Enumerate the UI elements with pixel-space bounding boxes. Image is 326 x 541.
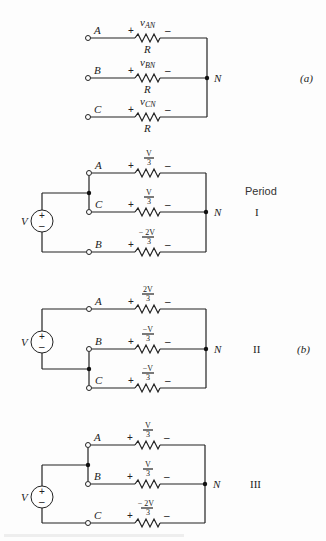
svg-text:–: – <box>165 296 171 307</box>
svg-text:− 2V: − 2V <box>139 228 156 237</box>
period-header: Period <box>245 185 277 197</box>
svg-text:C: C <box>95 198 103 210</box>
source-label: V <box>21 215 29 227</box>
svg-text:N: N <box>213 343 222 355</box>
svg-text:–: – <box>165 375 171 386</box>
plus-sign: + <box>128 25 134 36</box>
circuit-diagram: A B C + – + – + – vAN vBN vCN R R R N (a… <box>0 0 326 541</box>
plus-sign: + <box>128 104 134 115</box>
svg-text:–: – <box>164 471 170 482</box>
svg-text:–: – <box>165 160 171 171</box>
svg-text:–: – <box>165 239 171 250</box>
terminal-a <box>86 36 91 41</box>
svg-text:–: – <box>165 336 171 347</box>
svg-text:+: + <box>128 199 134 210</box>
svg-text:A: A <box>94 159 102 171</box>
svg-text:+: + <box>127 432 133 443</box>
svg-text:B: B <box>95 238 102 250</box>
svg-text:3: 3 <box>146 508 150 517</box>
terminal-c <box>86 115 91 120</box>
svg-text:V: V <box>146 149 152 158</box>
svg-text:+: + <box>128 375 134 386</box>
svg-text:–: – <box>164 510 170 521</box>
period-numeral: II <box>253 343 261 355</box>
svg-text:–: – <box>39 341 45 352</box>
minus-sign: – <box>165 104 171 115</box>
minus-sign: – <box>165 65 171 76</box>
neutral-node <box>205 76 209 80</box>
svg-text:3: 3 <box>146 334 150 343</box>
svg-text:3: 3 <box>147 197 151 206</box>
terminal-label: A <box>93 24 101 36</box>
svg-text:C: C <box>95 374 103 386</box>
part-a-label: (a) <box>300 72 313 85</box>
svg-text:V: V <box>21 336 29 348</box>
svg-text:3: 3 <box>147 237 151 246</box>
period-numeral: I <box>255 206 259 218</box>
svg-text:V: V <box>145 421 151 430</box>
caption-residue <box>4 534 184 537</box>
svg-text:3: 3 <box>146 294 150 303</box>
svg-text:+: + <box>128 336 134 347</box>
svg-text:–: – <box>165 199 171 210</box>
svg-text:− 2V: − 2V <box>138 499 155 508</box>
svg-text:+: + <box>127 510 133 521</box>
svg-text:+: + <box>128 239 134 250</box>
voltage-label: vCN <box>140 95 156 109</box>
voltage-label: vAN <box>140 16 156 30</box>
svg-text:C: C <box>94 509 102 521</box>
resistor-label: R <box>143 43 151 55</box>
svg-text:–: – <box>39 496 45 507</box>
svg-text:V: V <box>145 460 151 469</box>
period-1-circuit: + – V A C B +– +– +– V3 V3 − 2V3 N Perio… <box>21 149 277 256</box>
part-a: A B C + – + – + – vAN vBN vCN R R R N (a… <box>86 16 314 134</box>
svg-text:3: 3 <box>146 469 150 478</box>
terminal-label: B <box>94 64 101 76</box>
minus-sign: – <box>165 25 171 36</box>
svg-text:−V: −V <box>143 325 154 334</box>
svg-text:A: A <box>93 431 101 443</box>
plus-sign: + <box>128 65 134 76</box>
svg-text:V: V <box>146 188 152 197</box>
svg-text:–: – <box>164 432 170 443</box>
svg-text:3: 3 <box>147 158 151 167</box>
svg-text:B: B <box>95 335 102 347</box>
resistor-label: R <box>143 122 151 134</box>
svg-text:–: – <box>39 220 45 231</box>
period-numeral: III <box>250 478 261 490</box>
svg-text:+: + <box>127 471 133 482</box>
svg-text:N: N <box>213 206 222 218</box>
terminal-label: C <box>94 103 102 115</box>
svg-text:V: V <box>21 491 29 503</box>
svg-text:3: 3 <box>146 430 150 439</box>
neutral-label: N <box>213 72 222 84</box>
svg-text:N: N <box>212 478 221 490</box>
resistor-label: R <box>143 83 151 95</box>
svg-text:+: + <box>128 296 134 307</box>
svg-text:−V: −V <box>143 364 154 373</box>
svg-text:2V: 2V <box>143 285 153 294</box>
voltage-label: vBN <box>140 56 156 70</box>
svg-text:A: A <box>94 295 102 307</box>
circuit-figure: A B C + – + – + – vAN vBN vCN R R R N (a… <box>0 0 326 541</box>
period-2-circuit: + – V A B C +– +– +– 2V3 −V3 −V3 N II (b… <box>21 285 310 392</box>
svg-text:B: B <box>94 470 101 482</box>
terminal-b <box>86 76 91 81</box>
period-3-circuit: + – V A B C +– +– +– V3 V3 − 2V3 N III <box>21 421 261 527</box>
svg-text:3: 3 <box>146 373 150 382</box>
svg-text:+: + <box>128 160 134 171</box>
part-b-label: (b) <box>297 343 310 356</box>
